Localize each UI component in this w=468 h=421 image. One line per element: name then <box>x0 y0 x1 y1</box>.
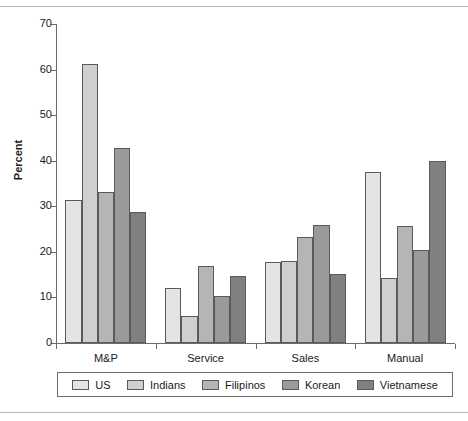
y-axis-title: Percent <box>12 140 24 180</box>
bar <box>230 276 246 343</box>
y-tick-label: 10 <box>40 290 52 303</box>
y-tick-label: 40 <box>40 154 52 167</box>
bar <box>214 296 230 343</box>
legend-label: Vietnamese <box>380 379 438 391</box>
legend-item[interactable]: Filipinos <box>202 379 265 391</box>
y-tick-label: 0 <box>46 336 52 349</box>
bar <box>198 266 214 343</box>
x-tick <box>156 344 157 349</box>
bar <box>365 172 381 343</box>
x-tick <box>256 344 257 349</box>
y-tick-label: 20 <box>40 245 52 258</box>
bar <box>114 148 130 343</box>
bar <box>381 278 397 343</box>
plot-area: 010203040506070 M&PServiceSalesManual <box>56 24 455 343</box>
chart-legend: USIndiansFilipinosKoreanVietnamese <box>57 372 453 397</box>
legend-label: Korean <box>305 379 340 391</box>
legend-label: US <box>95 379 110 391</box>
bar <box>65 200 81 343</box>
legend-item[interactable]: Indians <box>127 379 185 391</box>
legend-item[interactable]: Korean <box>282 379 340 391</box>
bar <box>181 316 197 343</box>
bar <box>297 237 313 343</box>
bar <box>281 261 297 343</box>
bar <box>330 274 346 343</box>
bar <box>165 288 181 343</box>
x-tick <box>455 344 456 349</box>
x-axis-label: M&P <box>94 352 118 364</box>
bar <box>397 226 413 343</box>
x-tick <box>56 344 57 349</box>
legend-swatch-icon <box>282 380 299 390</box>
chart-figure: Percent 010203040506070 M&PServiceSalesM… <box>0 0 468 421</box>
x-axis-label: Manual <box>387 352 423 364</box>
bar <box>429 161 445 343</box>
legend-label: Indians <box>150 379 185 391</box>
bar <box>313 225 329 343</box>
y-tick-label: 70 <box>40 17 52 30</box>
bar <box>130 212 146 343</box>
y-tick-label: 50 <box>40 108 52 121</box>
legend-item[interactable]: US <box>72 379 110 391</box>
bar <box>98 192 114 343</box>
y-tick-label: 30 <box>40 199 52 212</box>
legend-swatch-icon <box>127 380 144 390</box>
legend-items: USIndiansFilipinosKoreanVietnamese <box>58 373 452 396</box>
y-tick-label: 60 <box>40 63 52 76</box>
x-axis-label: Service <box>187 352 224 364</box>
bottom-divider <box>0 412 468 413</box>
bar <box>413 250 429 343</box>
top-divider <box>0 6 468 7</box>
y-axis-line <box>56 24 57 344</box>
legend-swatch-icon <box>72 380 89 390</box>
legend-swatch-icon <box>357 380 374 390</box>
legend-swatch-icon <box>202 380 219 390</box>
legend-label: Filipinos <box>225 379 265 391</box>
bar <box>82 64 98 343</box>
x-tick <box>355 344 356 349</box>
x-axis-label: Sales <box>292 352 320 364</box>
legend-item[interactable]: Vietnamese <box>357 379 438 391</box>
bar <box>265 262 281 343</box>
